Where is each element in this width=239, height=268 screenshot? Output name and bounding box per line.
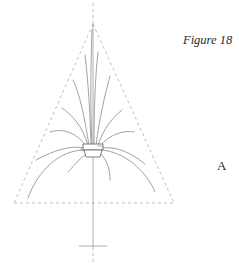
triangle-left-edge [14, 24, 93, 203]
plant-leaves [28, 30, 155, 198]
pot-body [84, 150, 102, 157]
triangle-right-edge [93, 24, 174, 203]
figure-page: Figure 18 A [0, 0, 239, 268]
figure-caption: Figure 18 [183, 33, 232, 48]
pot-rim [83, 144, 103, 150]
panel-label: A [217, 158, 226, 174]
